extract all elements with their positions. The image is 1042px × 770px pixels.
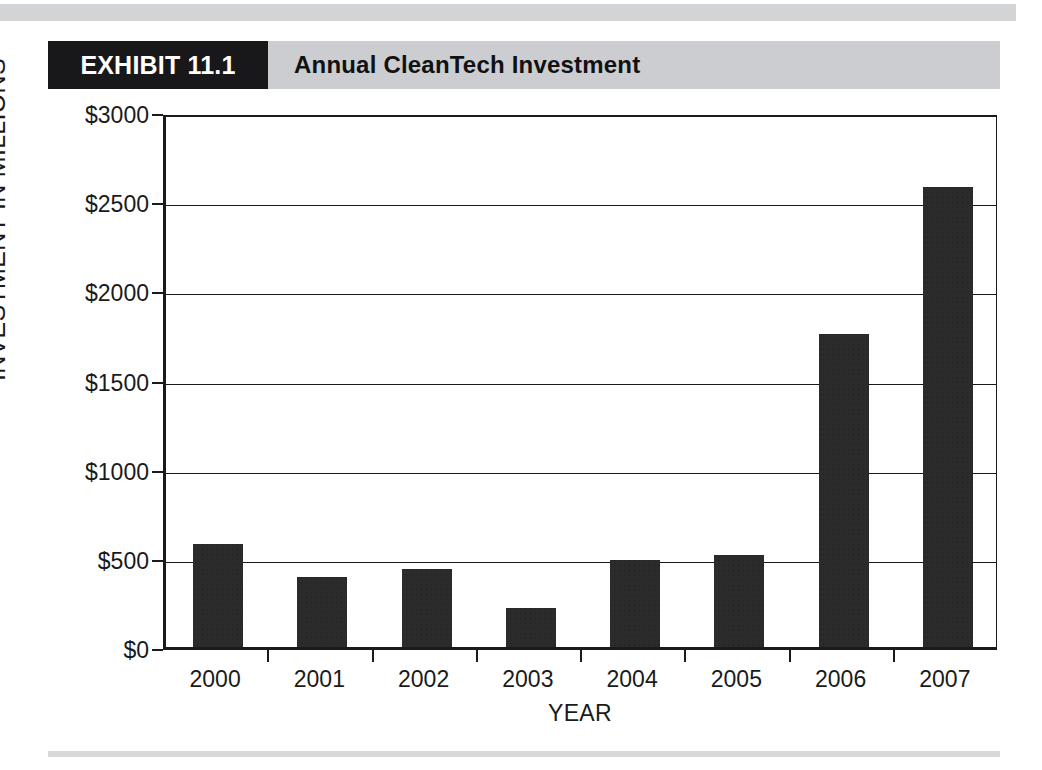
chart-figure: INVESTMENT IN MILLIONS $0$500$1000$1500$… — [0, 96, 1042, 716]
y-tick-mark — [152, 560, 163, 562]
y-tick-label: $1000 — [85, 458, 149, 485]
exhibit-number-tag: EXHIBIT 11.1 — [48, 41, 268, 89]
bar — [819, 334, 869, 647]
y-tick-mark — [152, 292, 163, 294]
y-tick-label: $500 — [98, 547, 149, 574]
x-tick-mark — [372, 650, 374, 662]
x-axis-title: YEAR — [163, 700, 997, 727]
y-tick-mark — [152, 382, 163, 384]
bar — [193, 544, 243, 647]
x-tick-label: 2000 — [190, 666, 241, 693]
x-tick-mark — [267, 650, 269, 662]
x-tick-label: 2004 — [607, 666, 658, 693]
x-tick-mark — [893, 650, 895, 662]
bottom-decorative-rule — [48, 751, 1000, 757]
y-tick-mark — [152, 203, 163, 205]
exhibit-title: Annual CleanTech Investment — [294, 41, 640, 89]
x-tick-label: 2005 — [711, 666, 762, 693]
x-tick-label: 2006 — [815, 666, 866, 693]
y-tick-label: $1500 — [85, 369, 149, 396]
y-tick-mark — [152, 114, 163, 116]
bar — [297, 577, 347, 647]
x-tick-label: 2003 — [502, 666, 553, 693]
y-tick-label: $2000 — [85, 280, 149, 307]
top-decorative-rule — [0, 4, 1016, 21]
bar-group — [166, 116, 996, 647]
x-tick-mark — [684, 650, 686, 662]
y-axis-title: INVESTMENT IN MILLIONS — [0, 58, 11, 381]
bar — [610, 560, 660, 647]
x-tick-label: 2007 — [919, 666, 970, 693]
y-tick-label: $3000 — [85, 102, 149, 129]
x-tick-mark — [476, 650, 478, 662]
y-tick-mark — [152, 649, 163, 651]
plot-area — [163, 115, 997, 650]
bar — [402, 569, 452, 647]
y-tick-label: $0 — [123, 637, 149, 664]
y-tick-mark — [152, 471, 163, 473]
exhibit-header-band: EXHIBIT 11.1 Annual CleanTech Investment — [48, 41, 1000, 89]
x-tick-label: 2002 — [398, 666, 449, 693]
x-tick-mark — [580, 650, 582, 662]
x-tick-mark — [789, 650, 791, 662]
bar — [506, 608, 556, 647]
y-axis: INVESTMENT IN MILLIONS $0$500$1000$1500$… — [0, 96, 163, 716]
bar — [714, 555, 764, 647]
y-tick-label: $2500 — [85, 191, 149, 218]
x-tick-label: 2001 — [294, 666, 345, 693]
bar — [923, 187, 973, 647]
